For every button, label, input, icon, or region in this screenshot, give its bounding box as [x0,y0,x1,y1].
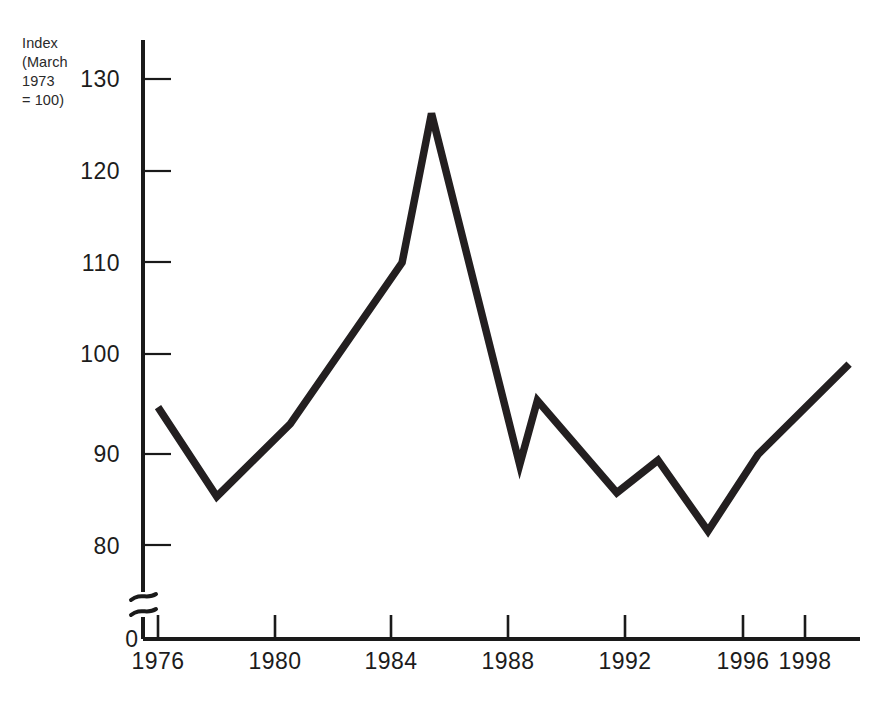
x-tick-marks [158,615,805,639]
y-tick-marks [143,79,171,545]
plot-area [0,0,893,709]
data-line-series [158,114,849,532]
axis-break-icon [131,594,156,615]
chart-container: Index (March 1973 = 100) 130 120 110 100… [0,0,893,709]
